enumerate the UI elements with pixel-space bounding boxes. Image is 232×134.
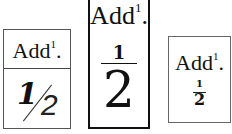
divider-line bbox=[4, 68, 70, 69]
add-abbreviation: Add1. bbox=[4, 38, 70, 64]
numerator: 1 bbox=[169, 78, 230, 89]
abbrev-text: Add bbox=[175, 50, 213, 75]
abbrev-dot: . bbox=[56, 38, 62, 63]
abbrev-dot: . bbox=[218, 50, 224, 75]
abbrev-dot: . bbox=[141, 1, 148, 30]
fraction: 1 2 bbox=[4, 70, 70, 128]
denominator: 2 bbox=[41, 88, 58, 122]
abbrev-text: Add bbox=[13, 38, 51, 63]
abbrev-text: Add bbox=[90, 1, 135, 30]
label-box-large-half: Add1. 1 2 bbox=[88, 0, 150, 129]
label-box-slashed-half: Add1. 1 2 bbox=[3, 29, 71, 129]
denominator: 2 bbox=[90, 60, 148, 120]
add-abbreviation: Add1. bbox=[90, 0, 148, 31]
label-box-small-half: Add1. 1 2 bbox=[168, 36, 231, 123]
add-abbreviation: Add1. bbox=[169, 50, 230, 76]
denominator: 2 bbox=[169, 90, 230, 109]
